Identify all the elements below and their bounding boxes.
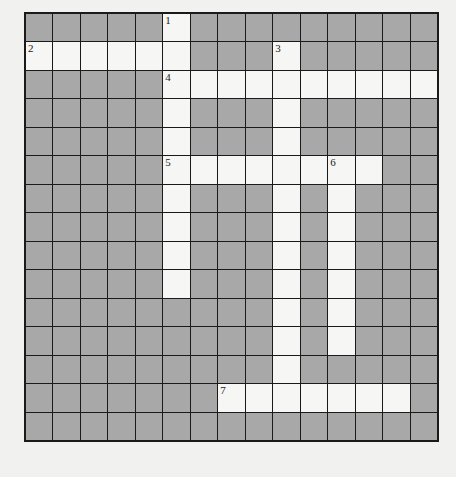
open-cell[interactable]: 5 [163, 156, 189, 183]
open-cell[interactable] [163, 185, 189, 212]
open-cell[interactable] [53, 42, 79, 69]
open-cell[interactable] [273, 270, 299, 297]
open-cell[interactable] [163, 270, 189, 297]
block-cell [26, 242, 52, 269]
open-cell[interactable] [383, 71, 409, 98]
block-cell [191, 270, 217, 297]
open-cell[interactable] [273, 242, 299, 269]
block-cell [136, 14, 162, 41]
block-cell [81, 413, 107, 440]
block-cell [328, 14, 354, 41]
block-cell [356, 42, 382, 69]
block-cell [26, 14, 52, 41]
open-cell[interactable] [81, 42, 107, 69]
open-cell[interactable]: 4 [163, 71, 189, 98]
block-cell [53, 384, 79, 411]
block-cell [81, 156, 107, 183]
block-cell [218, 356, 244, 383]
open-cell[interactable] [246, 156, 272, 183]
block-cell [191, 356, 217, 383]
open-cell[interactable] [328, 71, 354, 98]
open-cell[interactable] [163, 42, 189, 69]
block-cell [26, 185, 52, 212]
block-cell [81, 270, 107, 297]
block-cell [356, 270, 382, 297]
block-cell [26, 327, 52, 354]
block-cell [136, 384, 162, 411]
block-cell [81, 71, 107, 98]
block-cell [411, 42, 437, 69]
open-cell[interactable] [301, 384, 327, 411]
block-cell [246, 14, 272, 41]
block-cell [108, 242, 134, 269]
open-cell[interactable] [191, 156, 217, 183]
open-cell[interactable] [163, 128, 189, 155]
block-cell [53, 156, 79, 183]
open-cell[interactable] [108, 42, 134, 69]
open-cell[interactable] [246, 71, 272, 98]
block-cell [136, 99, 162, 126]
open-cell[interactable] [136, 42, 162, 69]
block-cell [163, 384, 189, 411]
open-cell[interactable] [273, 213, 299, 240]
open-cell[interactable] [328, 384, 354, 411]
block-cell [136, 242, 162, 269]
open-cell[interactable] [301, 71, 327, 98]
open-cell[interactable] [273, 185, 299, 212]
block-cell [53, 213, 79, 240]
block-cell [383, 299, 409, 326]
block-cell [328, 356, 354, 383]
open-cell[interactable] [328, 185, 354, 212]
open-cell[interactable]: 7 [218, 384, 244, 411]
open-cell[interactable] [328, 270, 354, 297]
open-cell[interactable] [273, 156, 299, 183]
open-cell[interactable]: 1 [163, 14, 189, 41]
block-cell [301, 356, 327, 383]
open-cell[interactable] [273, 384, 299, 411]
open-cell[interactable] [273, 356, 299, 383]
open-cell[interactable] [273, 299, 299, 326]
block-cell [356, 299, 382, 326]
clue-number: 4 [165, 72, 171, 83]
block-cell [136, 213, 162, 240]
open-cell[interactable] [163, 99, 189, 126]
open-cell[interactable] [356, 71, 382, 98]
block-cell [191, 185, 217, 212]
open-cell[interactable]: 3 [273, 42, 299, 69]
open-cell[interactable] [411, 71, 437, 98]
block-cell [163, 356, 189, 383]
open-cell[interactable] [191, 71, 217, 98]
open-cell[interactable] [328, 299, 354, 326]
open-cell[interactable] [328, 242, 354, 269]
open-cell[interactable] [356, 156, 382, 183]
block-cell [108, 128, 134, 155]
open-cell[interactable]: 2 [26, 42, 52, 69]
open-cell[interactable] [301, 156, 327, 183]
open-cell[interactable] [246, 384, 272, 411]
open-cell[interactable] [163, 242, 189, 269]
block-cell [191, 384, 217, 411]
open-cell[interactable] [356, 384, 382, 411]
open-cell[interactable] [383, 384, 409, 411]
block-cell [383, 185, 409, 212]
block-cell [411, 156, 437, 183]
open-cell[interactable]: 6 [328, 156, 354, 183]
block-cell [411, 213, 437, 240]
open-cell[interactable] [273, 99, 299, 126]
block-cell [108, 99, 134, 126]
open-cell[interactable] [163, 213, 189, 240]
block-cell [163, 299, 189, 326]
block-cell [383, 128, 409, 155]
open-cell[interactable] [273, 128, 299, 155]
open-cell[interactable] [328, 327, 354, 354]
open-cell[interactable] [328, 213, 354, 240]
open-cell[interactable] [273, 327, 299, 354]
open-cell[interactable] [218, 71, 244, 98]
open-cell[interactable] [273, 71, 299, 98]
open-cell[interactable] [218, 156, 244, 183]
block-cell [301, 213, 327, 240]
block-cell [218, 185, 244, 212]
block-cell [246, 213, 272, 240]
block-cell [383, 99, 409, 126]
block-cell [108, 14, 134, 41]
